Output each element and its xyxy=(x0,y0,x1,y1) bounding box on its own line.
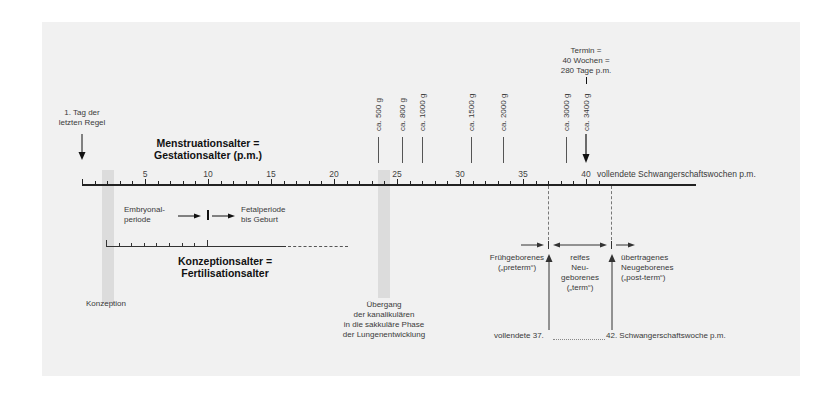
embryonal-arrow-icon xyxy=(178,213,202,219)
menstrual-age-title-line2: Gestationsalter (p.m.) xyxy=(154,149,262,161)
axis-label-20: 20 xyxy=(329,169,338,179)
weight-label: ca. 800 g xyxy=(398,98,407,131)
axis-tick xyxy=(82,179,83,185)
week-42-boundary xyxy=(611,186,612,240)
weight-marker-line xyxy=(471,137,472,163)
weight-marker-line xyxy=(402,137,403,163)
axis-tick xyxy=(422,181,423,185)
axis-tick xyxy=(536,181,537,185)
conception-axis-tick xyxy=(207,240,208,247)
axis-tick xyxy=(586,179,587,185)
axis-unit-label: vollendete Schwangerschaftswochen p.m. xyxy=(597,169,756,179)
week-42-marker xyxy=(611,241,612,249)
conception-age-axis xyxy=(106,246,286,247)
axis-tick xyxy=(397,179,398,185)
period-divider xyxy=(207,210,209,220)
lung-transition-band xyxy=(378,170,390,298)
axis-tick xyxy=(296,181,297,185)
axis-tick xyxy=(145,179,146,185)
week-42-up-arrow-icon xyxy=(608,254,616,330)
last-period-label: 1. Tag der letzten Regel xyxy=(59,108,106,128)
axis-tick xyxy=(510,181,511,185)
axis-tick xyxy=(473,181,474,185)
week-42-label: 42. Schwangerschaftswoche p.m. xyxy=(606,331,726,341)
weight-label: ca. 1500 g xyxy=(467,94,476,131)
conception-axis-tick xyxy=(169,243,170,247)
axis-tick xyxy=(170,181,171,185)
axis-tick xyxy=(548,181,549,185)
axis-tick xyxy=(309,181,310,185)
due-date-connector xyxy=(586,77,587,84)
axis-tick xyxy=(435,181,436,185)
axis-tick xyxy=(561,181,562,185)
term-label: reifes Neu- geborenes („term“) xyxy=(561,253,599,293)
postterm-arrow-icon xyxy=(616,242,636,248)
weight-marker-line xyxy=(378,137,379,163)
weight-label: ca. 2000 g xyxy=(499,94,508,131)
weight-label: ca. 3400 g xyxy=(582,94,591,131)
axis-label-30: 30 xyxy=(455,169,464,179)
axis-tick xyxy=(372,181,373,185)
conception-axis-tick xyxy=(119,243,120,247)
week-range-dotted-line xyxy=(553,339,605,340)
axis-tick xyxy=(233,181,234,185)
axis-label-15: 15 xyxy=(266,169,275,179)
axis-tick xyxy=(321,181,322,185)
axis-label-10: 10 xyxy=(203,169,212,179)
week-37-label: vollendete 37. xyxy=(494,331,544,341)
preterm-arrow-icon xyxy=(521,242,545,248)
axis-tick xyxy=(132,181,133,185)
conception-axis-tick xyxy=(144,243,145,247)
postterm-label: übertragenes Neugeborenes („post-term“) xyxy=(621,253,673,283)
menstrual-age-title-line1: Menstruationsalter = xyxy=(154,137,262,149)
due-date-arrow-icon xyxy=(582,134,590,164)
week-37-marker xyxy=(548,241,549,249)
conception-axis-tick xyxy=(156,243,157,247)
fetal-arrow-icon xyxy=(212,213,236,219)
menstrual-age-title: Menstruationsalter = Gestationsalter (p.… xyxy=(154,137,262,161)
axis-tick xyxy=(246,181,247,185)
weight-marker-line xyxy=(422,137,423,163)
embryonal-period-label: Embryonal- periode xyxy=(124,205,165,225)
axis-tick xyxy=(334,179,335,185)
axis-tick xyxy=(284,181,285,185)
conception-age-axis-dashed xyxy=(288,246,348,247)
conception-axis-tick xyxy=(182,243,183,247)
axis-label-40: 40 xyxy=(581,169,590,179)
axis-tick xyxy=(599,181,600,185)
weight-marker-line xyxy=(503,137,504,163)
axis-tick xyxy=(95,181,96,185)
lung-transition-label: Übergang der kanalikulären in die sakkul… xyxy=(343,300,425,340)
axis-label-25: 25 xyxy=(392,169,401,179)
axis-label-5: 5 xyxy=(143,169,148,179)
preterm-label: Frühgeborenes („preterm“) xyxy=(488,253,546,273)
conception-axis-tick xyxy=(131,243,132,247)
axis-tick xyxy=(195,181,196,185)
axis-tick xyxy=(498,181,499,185)
week-37-boundary xyxy=(548,186,549,240)
axis-tick xyxy=(460,179,461,185)
axis-tick xyxy=(107,181,108,185)
weight-label: ca. 3000 g xyxy=(562,94,571,131)
weight-label: ca. 1000 g xyxy=(418,94,427,131)
weight-label: ca. 500 g xyxy=(374,98,383,131)
axis-tick xyxy=(347,181,348,185)
axis-tick xyxy=(384,181,385,185)
axis-tick xyxy=(208,179,209,185)
axis-tick xyxy=(523,179,524,185)
axis-tick xyxy=(158,181,159,185)
axis-label-35: 35 xyxy=(518,169,527,179)
axis-tick xyxy=(221,181,222,185)
conception-label: Konzeption xyxy=(86,299,126,309)
last-period-arrow-icon xyxy=(78,134,86,160)
weight-marker-line xyxy=(566,137,567,163)
axis-tick xyxy=(447,181,448,185)
axis-tick xyxy=(271,179,272,185)
axis-tick xyxy=(183,181,184,185)
axis-tick xyxy=(359,181,360,185)
week-37-up-arrow-icon xyxy=(545,254,553,330)
conception-axis-tick xyxy=(194,243,195,247)
axis-tick xyxy=(258,181,259,185)
gestational-age-axis xyxy=(82,184,696,186)
axis-tick xyxy=(573,181,574,185)
